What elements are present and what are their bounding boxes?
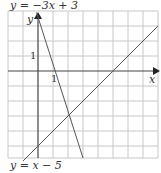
equation-top-label: y = −3x + 3	[10, 0, 78, 11]
y-tick-label: 1	[30, 51, 36, 61]
equation-bottom-label: y = x − 5	[10, 160, 62, 171]
axes	[8, 18, 153, 158]
graph	[0, 0, 161, 173]
line-y-eq-x-minus5	[23, 26, 158, 161]
x-tick-label: 1	[51, 74, 57, 84]
y-axis-label: y	[27, 14, 33, 25]
grid-lines	[8, 11, 158, 158]
line-y-eq-neg3x-plus3	[37, 13, 84, 159]
x-axis-label: x	[149, 74, 155, 85]
